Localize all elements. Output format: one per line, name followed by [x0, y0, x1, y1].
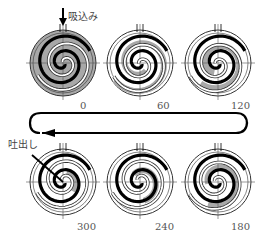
- scroll-stage-60: [103, 24, 177, 100]
- suction-label: 吸込み: [68, 12, 98, 22]
- cycle-arrowhead-icon: [42, 129, 55, 137]
- angle-label-60: 60: [157, 101, 170, 111]
- angle-label-120: 120: [231, 101, 250, 111]
- angle-label-300: 300: [77, 222, 96, 232]
- scroll-compressor-diagram: [0, 0, 265, 239]
- scroll-stage-240: [103, 143, 177, 219]
- angle-label-0: 0: [80, 101, 86, 111]
- cycle-flow-arrow: [30, 113, 247, 133]
- scroll-stage-180: [181, 143, 255, 219]
- angle-label-240: 240: [155, 222, 174, 232]
- angle-label-180: 180: [231, 222, 250, 232]
- discharge-label: 吐出し: [8, 140, 38, 150]
- scroll-stage-0: [26, 24, 100, 100]
- scroll-stage-120: [181, 24, 255, 100]
